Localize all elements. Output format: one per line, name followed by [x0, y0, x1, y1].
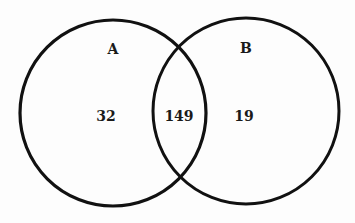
intersection-count: 149 [164, 108, 193, 124]
a-only-count: 32 [96, 108, 115, 124]
venn-diagram: A B 32 149 19 [0, 0, 355, 223]
set-b-label: B [240, 40, 252, 56]
set-a-label: A [107, 41, 120, 57]
b-only-count: 19 [234, 108, 253, 124]
